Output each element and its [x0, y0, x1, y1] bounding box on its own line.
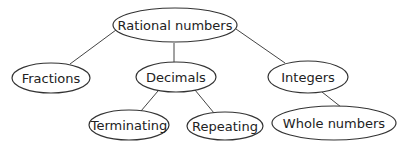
node-fractions: Fractions — [12, 63, 90, 93]
node-terminating: Terminating — [89, 110, 169, 140]
node-label: Rational numbers — [118, 18, 233, 33]
edge-integers-whole — [322, 92, 341, 107]
node-label: Terminating — [90, 118, 168, 133]
edge-rational-integers — [236, 29, 285, 63]
node-label: Fractions — [22, 71, 81, 86]
node-repeating: Repeating — [187, 112, 263, 140]
node-label: Repeating — [192, 119, 258, 134]
edge-decimals-repeating — [195, 90, 214, 113]
node-rational-numbers: Rational numbers — [113, 8, 237, 42]
concept-tree-diagram: Rational numbers Fractions Decimals Inte… — [0, 0, 402, 148]
node-decimals: Decimals — [136, 62, 216, 92]
node-label: Integers — [281, 70, 335, 85]
edge-decimals-terminating — [141, 91, 158, 111]
edge-rational-fractions — [70, 30, 116, 64]
node-label: Whole numbers — [283, 116, 386, 131]
node-label: Decimals — [146, 70, 206, 85]
node-integers: Integers — [268, 61, 348, 93]
node-whole-numbers: Whole numbers — [272, 106, 396, 140]
